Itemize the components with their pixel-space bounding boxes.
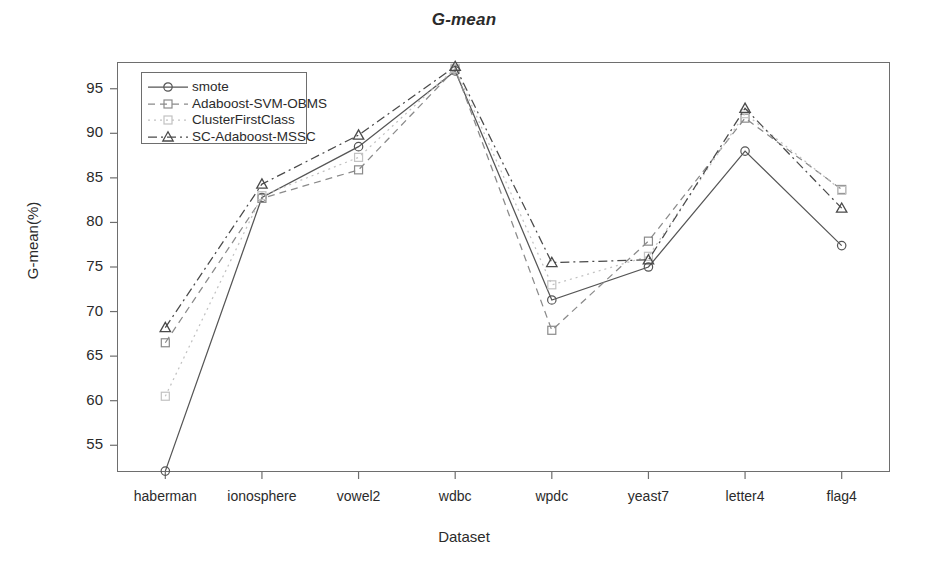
chart-root: G-mean G-mean(%) Dataset smoteAdaboost-S…: [0, 0, 928, 569]
legend-swatch-circle-icon: [146, 78, 190, 96]
legend-label: Adaboost-SVM-OBMS: [192, 96, 327, 111]
y-axis-tick-label: 90: [59, 123, 103, 140]
legend-label: ClusterFirstClass: [192, 112, 295, 127]
y-axis-tick-label: 85: [59, 168, 103, 185]
y-axis-tick-label: 80: [59, 212, 103, 229]
legend-item: SC-Adaboost-MSSC: [142, 128, 308, 146]
legend-swatch-triangle-icon: [146, 128, 190, 146]
y-axis-tick-label: 65: [59, 346, 103, 363]
y-axis-tick-label: 75: [59, 257, 103, 274]
y-axis-tick-label: 95: [59, 79, 103, 96]
legend-swatch-square-icon: [146, 111, 190, 129]
y-axis-label: G-mean(%): [24, 161, 41, 321]
legend-item: ClusterFirstClass: [142, 111, 308, 129]
x-axis-tick-label: flag4: [772, 488, 912, 504]
legend-swatch-square-icon: [146, 95, 190, 113]
legend-label: SC-Adaboost-MSSC: [192, 129, 316, 144]
y-axis-tick-label: 70: [59, 302, 103, 319]
y-axis-tick-label: 60: [59, 391, 103, 408]
legend: smoteAdaboost-SVM-OBMSClusterFirstClassS…: [141, 72, 307, 144]
legend-item: Adaboost-SVM-OBMS: [142, 95, 308, 113]
x-axis-label: Dataset: [0, 528, 928, 545]
chart-canvas: [0, 0, 928, 569]
legend-label: smote: [192, 79, 229, 94]
legend-item: smote: [142, 78, 308, 96]
y-axis-tick-label: 55: [59, 435, 103, 452]
